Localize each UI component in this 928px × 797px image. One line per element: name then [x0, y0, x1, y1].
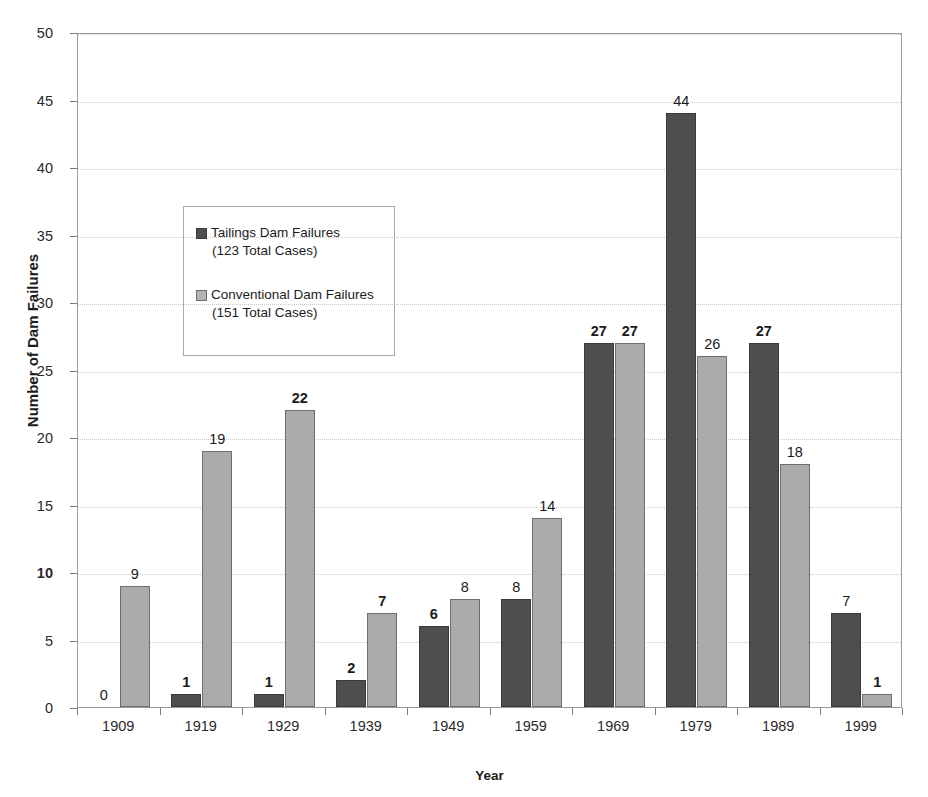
- y-tick-mark: [70, 641, 77, 642]
- x-tick-mark: [902, 708, 903, 715]
- legend-label-conventional: Conventional Dam Failures: [211, 287, 374, 302]
- bar-conventional-1989: [780, 464, 810, 707]
- bar-label-tailings-1979: 44: [673, 93, 689, 109]
- bar-conventional-1949: [450, 599, 480, 707]
- legend-entry-tailings: Tailings Dam Failures (123 Total Cases): [196, 225, 392, 258]
- bar-conventional-1929: [285, 410, 315, 707]
- y-tick-label: 40: [0, 160, 62, 176]
- bar-label-tailings-1939: 2: [347, 660, 355, 676]
- bar-tailings-1959: [501, 599, 531, 707]
- legend-label-tailings: Tailings Dam Failures: [211, 225, 340, 240]
- y-tick-label: 30: [0, 295, 62, 311]
- gridline: [78, 34, 901, 35]
- legend: Tailings Dam Failures (123 Total Cases) …: [183, 206, 395, 356]
- y-tick-mark: [70, 101, 77, 102]
- legend-entry-conventional: Conventional Dam Failures (151 Total Cas…: [196, 287, 392, 320]
- bar-label-conventional-1959: 14: [539, 498, 555, 514]
- x-tick-label: 1929: [267, 718, 299, 734]
- y-tick-label: 25: [0, 363, 62, 379]
- bar-tailings-1929: [254, 694, 284, 708]
- y-tick-label: 20: [0, 430, 62, 446]
- bar-label-tailings-1929: 1: [265, 674, 273, 690]
- bar-label-conventional-1919: 19: [209, 431, 225, 447]
- y-tick-mark: [70, 33, 77, 34]
- bar-label-conventional-1979: 26: [704, 336, 720, 352]
- bar-label-conventional-1999: 1: [873, 674, 881, 690]
- x-tick-label: 1979: [680, 718, 712, 734]
- x-tick-mark: [572, 708, 573, 715]
- bar-label-tailings-1909: 0: [100, 687, 108, 703]
- bar-label-tailings-1969: 27: [591, 323, 607, 339]
- bar-conventional-1979: [697, 356, 727, 707]
- bar-conventional-1959: [532, 518, 562, 707]
- gridline: [78, 102, 901, 103]
- x-tick-label: 1969: [597, 718, 629, 734]
- bar-label-tailings-1919: 1: [182, 674, 190, 690]
- bar-tailings-1949: [419, 626, 449, 707]
- legend-swatch-tailings-icon: [196, 228, 207, 239]
- bar-conventional-1919: [202, 451, 232, 708]
- x-tick-mark: [655, 708, 656, 715]
- y-tick-mark: [70, 168, 77, 169]
- bar-label-conventional-1909: 9: [131, 566, 139, 582]
- x-tick-label: 1999: [845, 718, 877, 734]
- bar-tailings-1979: [666, 113, 696, 707]
- bar-label-conventional-1969: 27: [622, 323, 638, 339]
- y-tick-label: 10: [0, 565, 62, 581]
- bar-label-conventional-1939: 7: [378, 593, 386, 609]
- y-tick-label: 50: [0, 25, 62, 41]
- x-tick-mark: [407, 708, 408, 715]
- bar-conventional-1909: [120, 586, 150, 708]
- y-tick-mark: [70, 371, 77, 372]
- y-tick-mark: [70, 236, 77, 237]
- x-tick-mark: [820, 708, 821, 715]
- bar-tailings-1989: [749, 343, 779, 708]
- bar-label-conventional-1949: 8: [461, 579, 469, 595]
- x-tick-mark: [490, 708, 491, 715]
- bar-label-tailings-1959: 8: [512, 579, 520, 595]
- x-axis-title: Year: [77, 768, 902, 783]
- y-tick-label: 45: [0, 93, 62, 109]
- bar-tailings-1919: [171, 694, 201, 708]
- y-tick-label: 35: [0, 228, 62, 244]
- bar-chart: Number of Dam Failures 05101520253035404…: [0, 0, 928, 797]
- y-tick-label: 5: [0, 633, 62, 649]
- bar-conventional-1969: [615, 343, 645, 708]
- bar-label-tailings-1949: 6: [430, 606, 438, 622]
- x-tick-mark: [325, 708, 326, 715]
- x-tick-label: 1909: [102, 718, 134, 734]
- bar-conventional-1939: [367, 613, 397, 708]
- x-tick-label: 1919: [185, 718, 217, 734]
- x-tick-label: 1959: [515, 718, 547, 734]
- x-tick-label: 1989: [762, 718, 794, 734]
- x-tick-mark: [77, 708, 78, 715]
- bar-label-tailings-1989: 27: [756, 323, 772, 339]
- bar-label-conventional-1989: 18: [787, 444, 803, 460]
- legend-sublabel-tailings: (123 Total Cases): [212, 243, 392, 258]
- bar-tailings-1969: [584, 343, 614, 708]
- x-tick-label: 1939: [350, 718, 382, 734]
- bar-tailings-1939: [336, 680, 366, 707]
- x-tick-mark: [242, 708, 243, 715]
- y-tick-mark: [70, 573, 77, 574]
- bar-conventional-1999: [862, 694, 892, 708]
- x-tick-label: 1949: [432, 718, 464, 734]
- x-tick-mark: [160, 708, 161, 715]
- bar-label-conventional-1929: 22: [292, 390, 308, 406]
- bar-label-tailings-1999: 7: [842, 593, 850, 609]
- legend-swatch-conventional-icon: [196, 290, 207, 301]
- bar-tailings-1999: [831, 613, 861, 708]
- x-tick-mark: [737, 708, 738, 715]
- y-tick-mark: [70, 708, 77, 709]
- y-tick-label: 0: [0, 700, 62, 716]
- y-tick-mark: [70, 506, 77, 507]
- gridline: [78, 169, 901, 170]
- plot-area: 09119122276881427274426271871 Tailings D…: [77, 33, 902, 708]
- y-tick-mark: [70, 303, 77, 304]
- y-tick-label: 15: [0, 498, 62, 514]
- legend-sublabel-conventional: (151 Total Cases): [212, 305, 392, 320]
- y-tick-mark: [70, 438, 77, 439]
